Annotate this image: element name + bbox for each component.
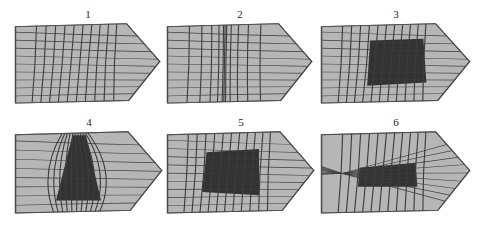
panel-2-label: 2 bbox=[166, 8, 314, 21]
panel-1-canvas bbox=[14, 22, 162, 106]
panel-3: 3 bbox=[320, 8, 472, 108]
panel-6-canvas bbox=[320, 130, 472, 216]
panel-1-label: 1 bbox=[14, 8, 162, 21]
panel-2: 2 bbox=[166, 8, 314, 108]
panel-3-label: 3 bbox=[320, 8, 472, 21]
panel-4-label: 4 bbox=[14, 116, 164, 129]
figure-panel-grid: 123456 bbox=[0, 0, 485, 227]
panel-4: 4 bbox=[14, 116, 164, 218]
panel-6: 6 bbox=[320, 116, 472, 218]
panel-2-canvas bbox=[166, 22, 314, 106]
panel-6-label: 6 bbox=[320, 116, 472, 129]
panel-3-canvas bbox=[320, 22, 472, 106]
panel-4-canvas bbox=[14, 130, 164, 216]
panel-5: 5 bbox=[166, 116, 316, 218]
panel-5-canvas bbox=[166, 130, 316, 216]
panel-5-label: 5 bbox=[166, 116, 316, 129]
panel-1: 1 bbox=[14, 8, 162, 108]
